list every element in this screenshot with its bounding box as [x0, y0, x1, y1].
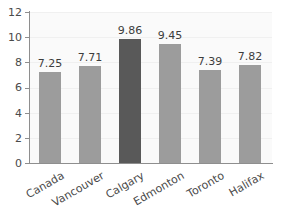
bar-edmonton — [159, 44, 181, 163]
bar-value-label: 7.82 — [227, 51, 273, 62]
y-axis-tick-label: 12 — [2, 7, 22, 18]
x-axis-labels: Canada Vancouver Calgary Edmonton Toront… — [0, 163, 284, 210]
y-axis-tick-label: 4 — [2, 108, 22, 119]
y-axis-tick-label: 8 — [2, 57, 22, 68]
bar-toronto — [199, 70, 221, 163]
bar-canada — [39, 72, 61, 163]
y-axis-tick-label: 10 — [2, 32, 22, 43]
bar-halifax — [239, 65, 261, 163]
bar-chart: 12 10 8 6 4 2 0 7.25 7.71 9.86 9.45 7.39… — [0, 0, 284, 210]
bar-vancouver — [79, 66, 101, 163]
y-axis-tick-label: 6 — [2, 82, 22, 93]
bar-calgary — [119, 39, 141, 163]
bar-value-label: 9.45 — [147, 30, 193, 41]
bar-value-label: 7.71 — [67, 52, 113, 63]
y-axis-tick-label: 2 — [2, 133, 22, 144]
